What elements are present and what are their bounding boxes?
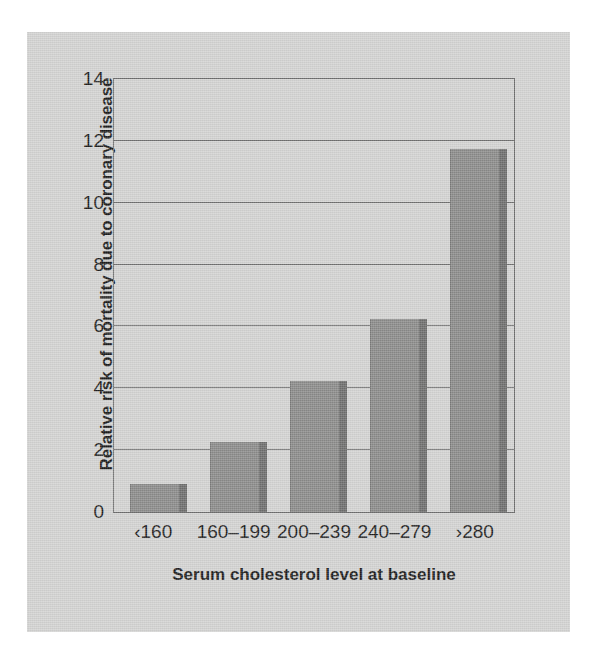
- x-tick-label: 240–279: [354, 521, 434, 543]
- x-tick-label: 160–199: [193, 521, 273, 543]
- bar[interactable]: [290, 381, 339, 512]
- y-tick-label: 8: [93, 254, 104, 276]
- bar[interactable]: [130, 484, 179, 512]
- bar-slot: [194, 79, 274, 512]
- bar-series: [114, 79, 514, 512]
- figure-panel: Relative risk of mortality due to corona…: [27, 32, 570, 632]
- y-tick-label: 10: [83, 192, 104, 214]
- bar[interactable]: [450, 149, 499, 512]
- bar[interactable]: [210, 442, 259, 512]
- y-tick-label: 12: [83, 130, 104, 152]
- x-tick-label: ›280: [435, 521, 515, 543]
- plot-area: 02468101214: [113, 78, 515, 513]
- bar[interactable]: [370, 319, 419, 512]
- bar-slot: [354, 79, 434, 512]
- bar-slot: [114, 79, 194, 512]
- bar-slot: [434, 79, 514, 512]
- bar-slot: [274, 79, 354, 512]
- y-tick-label: 6: [93, 315, 104, 337]
- y-tick-label: 0: [93, 501, 104, 523]
- y-tick-label: 4: [93, 377, 104, 399]
- x-axis-tick-labels: ‹160160–199200–239240–279›280: [113, 521, 515, 543]
- x-tick-label: 200–239: [274, 521, 354, 543]
- y-tick-label: 2: [93, 439, 104, 461]
- page-canvas: Relative risk of mortality due to corona…: [0, 0, 589, 665]
- y-tick-label: 14: [83, 68, 104, 90]
- x-tick-label: ‹160: [113, 521, 193, 543]
- x-axis-title: Serum cholesterol level at baseline: [113, 565, 515, 585]
